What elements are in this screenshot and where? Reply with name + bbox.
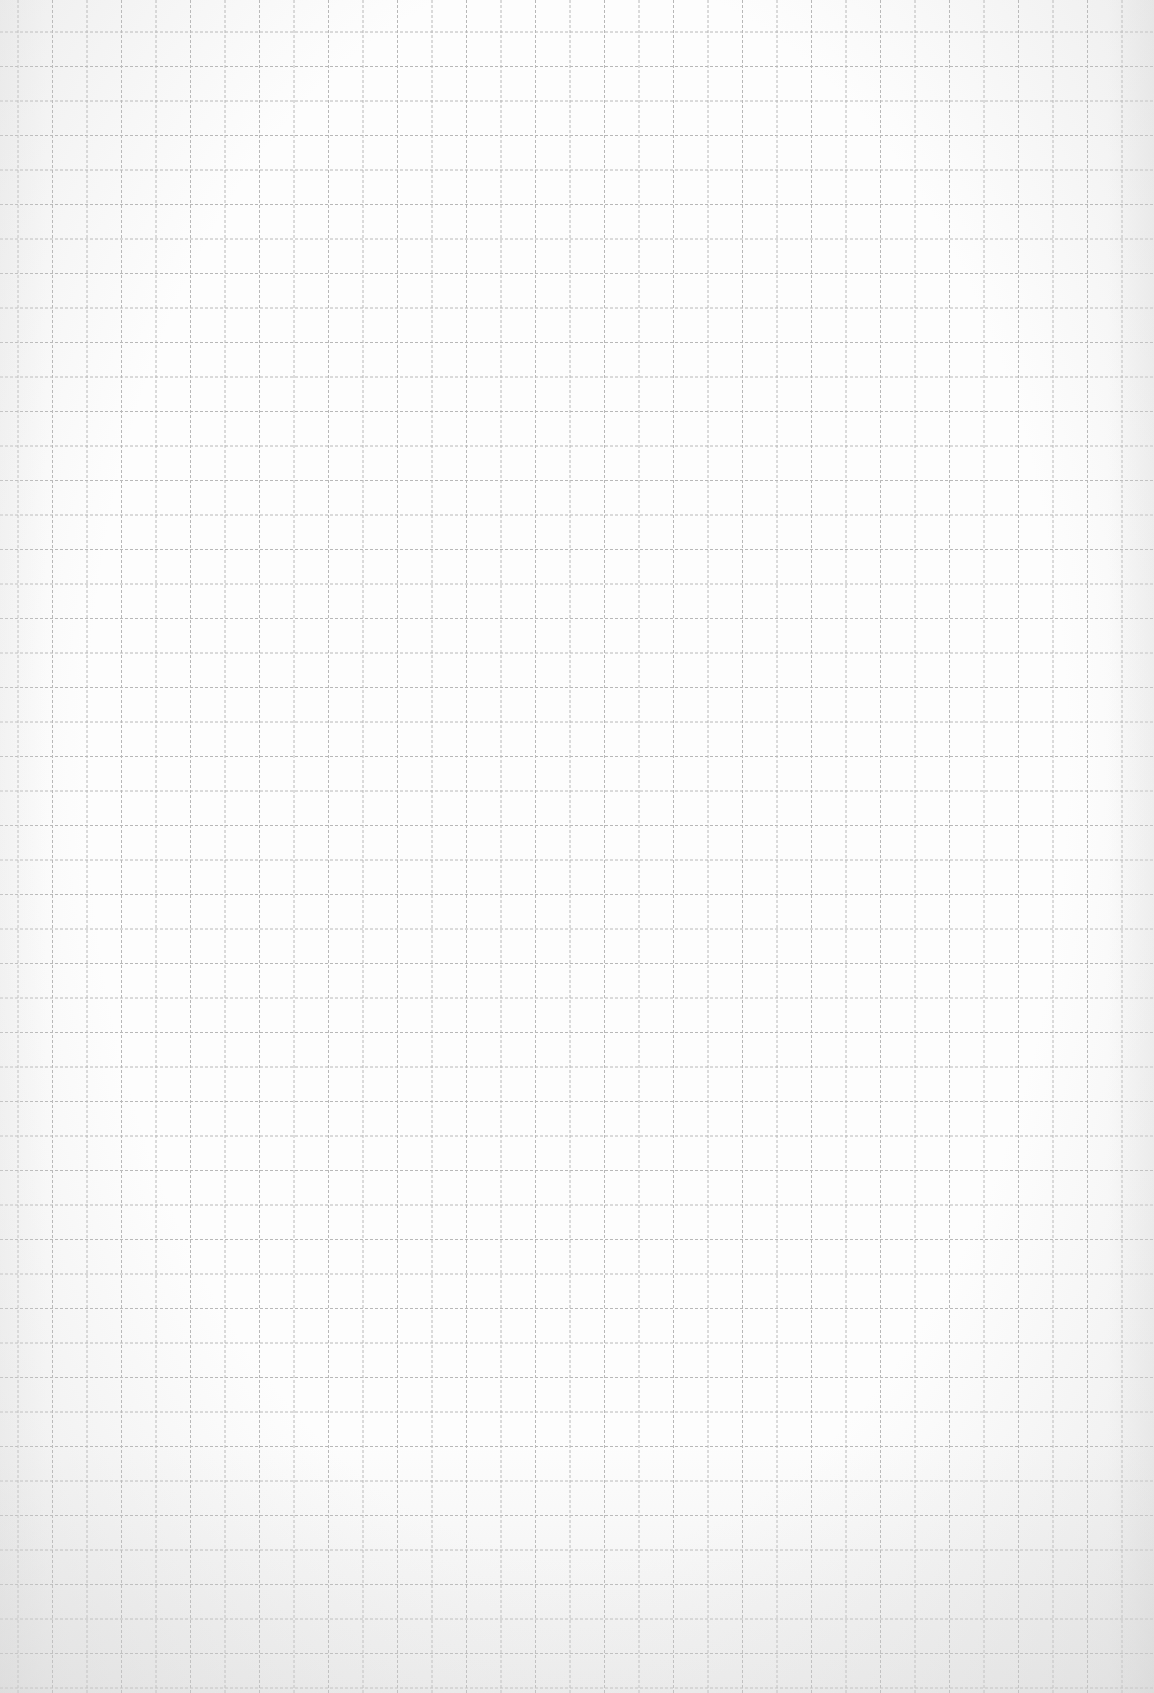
grid-lines	[0, 0, 1154, 1693]
graph-paper-sheet	[0, 0, 1154, 1693]
